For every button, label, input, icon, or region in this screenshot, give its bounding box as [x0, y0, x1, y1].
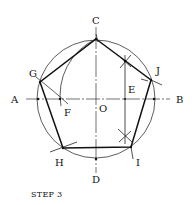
point-j-dot [150, 79, 152, 81]
point-h-dot [62, 147, 64, 149]
label-f: F [64, 107, 71, 118]
label-i: I [136, 157, 140, 168]
point-i-dot [130, 146, 132, 148]
label-g: G [29, 68, 37, 79]
pentagon-construction-diagram: C D A B O E F G H I J STEP 3 [0, 0, 192, 205]
point-g-dot [39, 81, 41, 83]
point-e-dot [124, 98, 126, 100]
point-a-dot [37, 98, 39, 100]
arc-c-to-f [60, 39, 96, 106]
label-c: C [92, 15, 100, 26]
tick-j [141, 79, 148, 81]
label-a: A [10, 94, 19, 105]
tick-i [131, 147, 133, 159]
point-d-dot [95, 158, 97, 160]
cross-top-dot [124, 60, 126, 62]
point-f-dot [59, 98, 61, 100]
label-j: J [155, 65, 160, 76]
label-o: O [99, 103, 107, 114]
label-b: B [176, 94, 183, 105]
label-h: H [55, 157, 64, 168]
point-c-dot [95, 38, 97, 40]
step-caption: STEP 3 [31, 190, 62, 199]
label-e: E [128, 84, 135, 95]
point-b-dot [153, 98, 155, 100]
label-d: D [92, 174, 100, 185]
